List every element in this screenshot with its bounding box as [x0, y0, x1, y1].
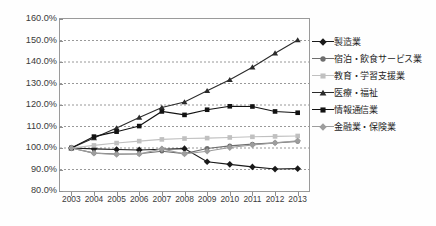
data-point-marker [295, 37, 301, 42]
y-axis-tick-label: 130.0% [5, 79, 57, 88]
data-point-marker [320, 73, 325, 78]
data-point-marker [181, 99, 187, 104]
data-point-marker [227, 135, 232, 140]
data-point-marker [136, 151, 143, 158]
data-point-marker [294, 137, 301, 144]
y-axis-tick-label: 150.0% [5, 36, 57, 45]
data-point-marker [205, 136, 210, 141]
legend-item-6[interactable]: 金融業・保険業 [312, 118, 436, 135]
data-point-marker [294, 165, 301, 172]
y-axis-tick-mark [59, 127, 63, 128]
data-point-marker [320, 56, 325, 61]
data-point-marker [320, 89, 327, 95]
data-point-marker [204, 158, 211, 165]
y-axis-tick-label: 120.0% [5, 100, 57, 109]
legend-symbol [319, 38, 327, 46]
circle-marker-icon [312, 52, 334, 66]
data-point-marker [136, 115, 142, 120]
y-axis-tick-mark [59, 148, 63, 149]
x-axis-tick-mark [298, 192, 299, 196]
data-point-marker [249, 142, 256, 149]
y-axis-tick-mark [59, 105, 63, 106]
data-point-marker [204, 88, 210, 93]
x-axis-tick-mark [94, 192, 95, 196]
data-point-marker [227, 77, 233, 82]
x-axis-tick-mark [71, 192, 72, 196]
y-axis-tick-label: 160.0% [5, 14, 57, 23]
y-axis-tick-mark [59, 191, 63, 192]
data-point-marker [113, 151, 120, 158]
y-axis-tick-label: 100.0% [5, 143, 57, 152]
data-point-marker [92, 134, 97, 139]
data-point-marker [273, 109, 278, 114]
legend-symbol [319, 55, 327, 63]
legend: 製造業宿泊・飲食サービス業教育・学習支援業医療・福祉情報通信業金融業・保険業 [312, 33, 436, 135]
legend-item-label: 情報通信業 [334, 103, 378, 116]
data-point-marker [226, 161, 233, 168]
data-point-marker [320, 107, 325, 112]
data-point-marker [319, 38, 326, 45]
x-axis-tick-mark [207, 192, 208, 196]
x-axis-tick-mark [117, 192, 118, 196]
data-point-marker [114, 141, 119, 146]
y-axis-tick-mark [59, 19, 63, 20]
legend-item-2[interactable]: 宿泊・飲食サービス業 [312, 50, 436, 67]
data-point-marker [182, 136, 187, 141]
y-axis-tick-label: 90.0% [5, 165, 57, 174]
data-point-marker [227, 104, 232, 109]
data-point-marker [249, 64, 255, 69]
y-axis: 160.0%150.0%140.0%130.0%120.0%110.0%100.… [2, 0, 57, 226]
legend-symbol [319, 106, 327, 114]
legend-item-5[interactable]: 情報通信業 [312, 101, 436, 118]
legend-item-label: 教育・学習支援業 [334, 69, 404, 82]
plot-area [59, 18, 310, 192]
data-point-marker [160, 137, 165, 142]
data-point-marker [295, 110, 300, 115]
data-point-marker [250, 135, 255, 140]
data-point-marker [181, 151, 188, 158]
line-chart: 160.0%150.0%140.0%130.0%120.0%110.0%100.… [0, 0, 436, 226]
series-1 [68, 145, 301, 173]
series-4 [68, 37, 300, 150]
series-line [71, 40, 297, 148]
y-axis-tick-mark [59, 84, 63, 85]
x-axis: 2003200420052006200720082009201020112012… [0, 194, 436, 208]
data-point-marker [160, 109, 165, 114]
data-point-marker [272, 140, 279, 147]
legend-item-4[interactable]: 医療・福祉 [312, 84, 436, 101]
legend-item-label: 金融業・保険業 [334, 120, 396, 133]
legend-symbol [319, 72, 327, 80]
legend-item-label: 製造業 [334, 35, 360, 48]
legend-symbol [319, 123, 327, 131]
data-point-marker [182, 113, 187, 118]
data-point-marker [319, 123, 326, 130]
data-point-marker [249, 164, 256, 171]
data-point-marker [114, 129, 119, 134]
legend-item-label: 宿泊・飲食サービス業 [334, 52, 422, 65]
data-point-marker [92, 143, 97, 148]
x-axis-tick-mark [252, 192, 253, 196]
y-axis-tick-mark [59, 41, 63, 42]
diamond-marker-icon [312, 35, 334, 49]
data-point-marker [91, 150, 98, 157]
x-axis-tick-mark [275, 192, 276, 196]
y-axis-tick-label: 110.0% [5, 122, 57, 131]
y-axis-tick-mark [59, 62, 63, 63]
square-marker-icon [312, 103, 334, 117]
data-point-marker [137, 124, 142, 129]
data-point-marker [250, 104, 255, 109]
legend-item-label: 医療・福祉 [334, 86, 378, 99]
data-point-marker [205, 107, 210, 112]
legend-item-1[interactable]: 製造業 [312, 33, 436, 50]
y-axis-tick-label: 140.0% [5, 57, 57, 66]
data-point-marker [272, 166, 279, 173]
data-point-marker [273, 134, 278, 139]
x-axis-tick-mark [185, 192, 186, 196]
series-canvas [60, 19, 309, 191]
legend-symbol [319, 89, 327, 97]
data-point-marker [272, 50, 278, 55]
series-line [71, 106, 297, 148]
x-axis-tick-mark [230, 192, 231, 196]
diamond-marker-icon [312, 120, 334, 134]
legend-item-3[interactable]: 教育・学習支援業 [312, 67, 436, 84]
